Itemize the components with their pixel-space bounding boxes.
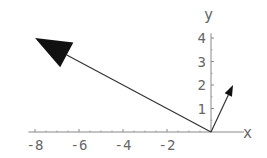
- vector-plot: -8-6-4-21234 x y: [0, 0, 267, 158]
- y-axis-label: y: [204, 6, 213, 24]
- vector-large-arrowhead-icon: [35, 38, 73, 67]
- x-tick-label: -6: [71, 137, 88, 153]
- x-axis-label: x: [243, 124, 252, 142]
- y-tick-label: 3: [198, 54, 206, 70]
- y-tick-label: 4: [198, 30, 206, 46]
- x-tick-label: -8: [27, 137, 44, 153]
- vector-small-arrowhead-icon: [225, 85, 233, 97]
- vector-large-shaft: [67, 55, 211, 132]
- y-tick-label: 1: [198, 101, 206, 117]
- y-tick-label: 2: [198, 77, 206, 93]
- x-tick-label: -4: [115, 137, 132, 153]
- x-tick-label: -2: [159, 137, 176, 153]
- vector-small-shaft: [211, 95, 228, 132]
